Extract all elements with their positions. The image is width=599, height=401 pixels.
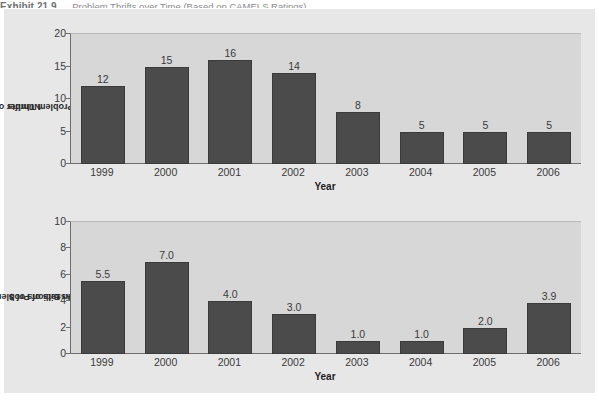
y-axis-title-count: Number of Problem Thrifts: [14, 15, 44, 197]
bar: 1.0: [336, 341, 380, 354]
bar-value-label: 5: [482, 119, 488, 131]
plot-area-count: 121516148555: [70, 33, 581, 164]
bar: 3.9: [527, 303, 571, 354]
y-tick-label: 20: [54, 27, 66, 39]
y-tick-label: 0: [60, 347, 66, 359]
bar-value-label: 5: [546, 119, 552, 131]
bar-series-count: 121516148555: [71, 34, 581, 164]
chart-problem-thrifts-assets: Assets of Problem Thrifts in Billions of…: [4, 203, 595, 389]
bar-value-label: 7.0: [159, 249, 174, 261]
x-tick-label: 2005: [453, 166, 517, 178]
bar: 7.0: [145, 262, 189, 354]
bar-slot: 5: [517, 34, 581, 164]
x-tick-label: 2003: [325, 356, 389, 368]
x-tick-label: 2001: [198, 356, 262, 368]
bar-value-label: 8: [355, 99, 361, 111]
bar-slot: 5.5: [71, 222, 135, 354]
bar-slot: 2.0: [454, 222, 518, 354]
bar-value-label: 5: [419, 119, 425, 131]
x-tick-label: 1999: [70, 356, 134, 368]
bar-slot: 14: [262, 34, 326, 164]
y-tick-label: 5: [60, 125, 66, 137]
y-tick-label: 15: [54, 60, 66, 72]
y-axis-ticks-count: 05101520: [44, 33, 70, 163]
bar-value-label: 12: [97, 73, 109, 85]
y-tick-label: 8: [60, 241, 66, 253]
bar: 8: [336, 112, 380, 164]
bar-value-label: 3.9: [542, 290, 557, 302]
bar-slot: 5: [454, 34, 518, 164]
bar: 5: [400, 132, 444, 165]
bar: 3.0: [272, 314, 316, 354]
bar: 14: [272, 73, 316, 164]
bar-slot: 15: [135, 34, 199, 164]
bar: 1.0: [400, 341, 444, 354]
bar-slot: 8: [326, 34, 390, 164]
bar: 4.0: [208, 301, 252, 354]
bar-value-label: 3.0: [287, 301, 302, 313]
x-tick-label: 2006: [516, 356, 580, 368]
x-axis-labels-assets: 19992000200120022003200420052006: [70, 356, 580, 368]
exhibit-caption: Exhibit 21.9 Problem Thrifts over Time (…: [0, 0, 599, 8]
bar-slot: 1.0: [326, 222, 390, 354]
bar: 5: [527, 132, 571, 165]
bar: 5: [463, 132, 507, 165]
exhibit-title: Problem Thrifts over Time (Based on CAME…: [72, 1, 306, 8]
exhibit-panel: Number of Problem Thrifts 05101520 12151…: [4, 9, 595, 393]
bar: 15: [145, 67, 189, 165]
bar-slot: 1.0: [390, 222, 454, 354]
x-tick-label: 2001: [198, 166, 262, 178]
y-axis-title-assets: Assets of Problem Thrifts in Billions of…: [14, 203, 44, 389]
x-tick-label: 2004: [389, 356, 453, 368]
x-tick-label: 2000: [134, 166, 198, 178]
x-axis-title-count: Year: [70, 181, 580, 192]
bar: 2.0: [463, 328, 507, 354]
x-tick-label: 2002: [261, 166, 325, 178]
x-tick-label: 2006: [516, 166, 580, 178]
bar-slot: 12: [71, 34, 135, 164]
bar-value-label: 1.0: [351, 328, 366, 340]
y-tick-label: 4: [60, 294, 66, 306]
bar-series-assets: 5.57.04.03.01.01.02.03.9: [71, 222, 581, 354]
bar-value-label: 5.5: [96, 268, 111, 280]
bar-value-label: 1.0: [414, 328, 429, 340]
bar-slot: 3.9: [517, 222, 581, 354]
bar: 16: [208, 60, 252, 164]
bar-value-label: 2.0: [478, 315, 493, 327]
exhibit-number: Exhibit 21.9: [0, 1, 57, 8]
y-axis-ticks-assets: 0246810: [44, 221, 70, 353]
bar-value-label: 16: [225, 47, 237, 59]
plot-area-assets: 5.57.04.03.01.01.02.03.9: [70, 221, 581, 354]
bar-slot: 7.0: [135, 222, 199, 354]
bar-slot: 5: [390, 34, 454, 164]
y-tick-label: 0: [60, 157, 66, 169]
bar-value-label: 15: [161, 54, 173, 66]
x-tick-label: 1999: [70, 166, 134, 178]
bar-slot: 16: [199, 34, 263, 164]
x-tick-label: 2002: [261, 356, 325, 368]
bar-slot: 4.0: [199, 222, 263, 354]
x-axis-labels-count: 19992000200120022003200420052006: [70, 166, 580, 178]
y-tick-label: 6: [60, 268, 66, 280]
bar-value-label: 4.0: [223, 288, 238, 300]
x-tick-label: 2000: [134, 356, 198, 368]
x-tick-label: 2005: [453, 356, 517, 368]
bar-slot: 3.0: [262, 222, 326, 354]
x-axis-title-assets: Year: [70, 371, 580, 382]
bar: 12: [81, 86, 125, 164]
y-tick-label: 10: [54, 92, 66, 104]
y-tick-label: 2: [60, 321, 66, 333]
bar: 5.5: [81, 281, 125, 354]
x-tick-label: 2003: [325, 166, 389, 178]
x-tick-label: 2004: [389, 166, 453, 178]
y-tick-label: 10: [54, 215, 66, 227]
chart-problem-thrifts-count: Number of Problem Thrifts 05101520 12151…: [4, 15, 595, 197]
bar-value-label: 14: [288, 60, 300, 72]
